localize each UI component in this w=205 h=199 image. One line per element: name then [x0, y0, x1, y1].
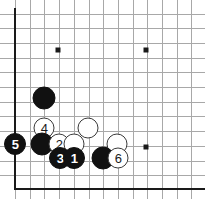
- grid-line-vertical: [177, 0, 178, 199]
- board-edge-bottom: [14, 188, 205, 190]
- grid-line-vertical: [30, 0, 31, 199]
- grid-line-vertical: [191, 0, 192, 199]
- stone-black-move-5: 5: [4, 133, 26, 155]
- stone-black-move-1: 1: [63, 147, 85, 169]
- grid-line-vertical: [147, 0, 148, 199]
- grid-line-vertical: [118, 0, 119, 199]
- grid-line-vertical: [133, 0, 134, 199]
- star-point-upper-left: [56, 48, 61, 53]
- grid-line-vertical: [59, 0, 60, 199]
- star-point-lower-right: [144, 145, 149, 150]
- grid-line-vertical: [89, 0, 90, 199]
- star-point-upper-right: [144, 48, 149, 53]
- stone-black-plain-upper: [33, 87, 56, 110]
- grid-line-vertical: [74, 0, 75, 199]
- stone-move-number: 1: [71, 152, 78, 165]
- stone-white-move-6: 6: [108, 148, 129, 169]
- stone-move-number: 5: [12, 138, 19, 151]
- stone-move-number: 6: [115, 152, 122, 165]
- board-edge-left: [14, 8, 16, 190]
- go-board-diagram: 452316: [0, 0, 205, 199]
- grid-line-vertical: [162, 0, 163, 199]
